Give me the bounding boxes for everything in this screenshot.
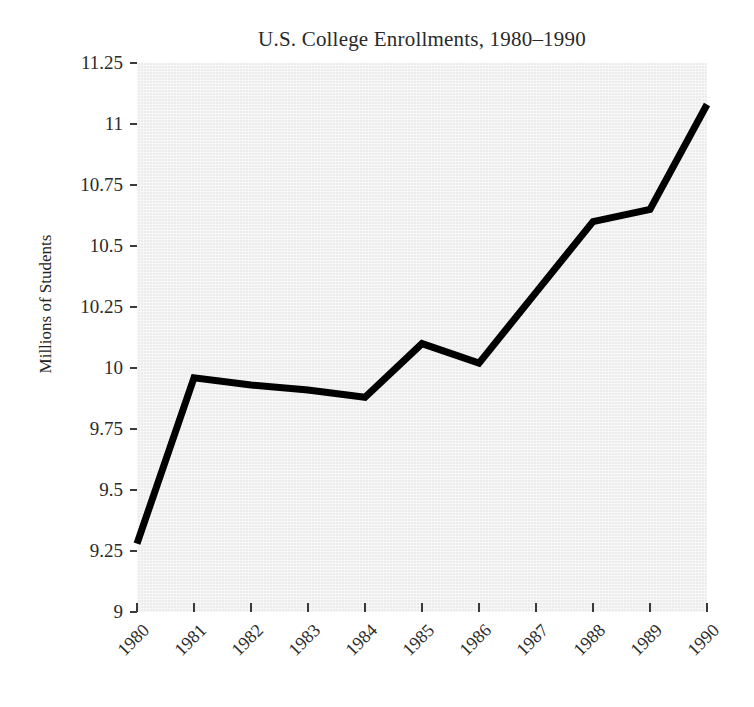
y-tick-label: 10 xyxy=(0,357,123,379)
y-tick-label: 11 xyxy=(0,113,123,135)
chart-figure: U.S. College Enrollments, 1980–1990 Mill… xyxy=(0,0,754,707)
line-series-enrollment xyxy=(137,104,707,543)
y-tick-label: 11.25 xyxy=(0,52,123,74)
y-tick-label: 10.5 xyxy=(0,235,123,257)
y-tick-label: 9.75 xyxy=(0,418,123,440)
y-tick-label: 9 xyxy=(0,601,123,623)
y-tick-label: 9.5 xyxy=(0,479,123,501)
y-tick-label: 10.25 xyxy=(0,296,123,318)
line-series-svg xyxy=(137,63,707,612)
plot-area xyxy=(137,63,707,612)
y-tick-label: 10.75 xyxy=(0,174,123,196)
y-tick-label: 9.25 xyxy=(0,540,123,562)
